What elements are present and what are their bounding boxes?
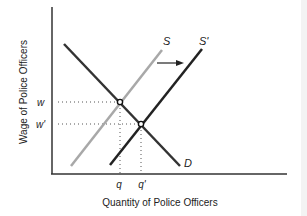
w-tick-label: w bbox=[37, 97, 45, 108]
x-axis-title: Quantity of Police Officers bbox=[102, 197, 217, 208]
w-prime-tick-label: w' bbox=[36, 119, 46, 130]
shift-arrow-icon bbox=[157, 60, 184, 66]
right-edge-strip bbox=[301, 0, 307, 216]
q-tick-label: q bbox=[116, 179, 122, 190]
supply-label: S bbox=[163, 35, 171, 47]
demand-label: D bbox=[184, 157, 192, 169]
y-axis-title: Wage of Police Officers bbox=[18, 40, 29, 144]
equilibrium-point-new bbox=[138, 121, 143, 126]
q-prime-tick-label: q' bbox=[138, 179, 147, 190]
supply-demand-chart: S S' D w w' q q' Quantity of Police Offi… bbox=[0, 0, 307, 216]
demand-curve-d bbox=[64, 44, 180, 166]
supply-new-label: S' bbox=[199, 35, 209, 47]
equilibrium-point-original bbox=[117, 99, 122, 104]
